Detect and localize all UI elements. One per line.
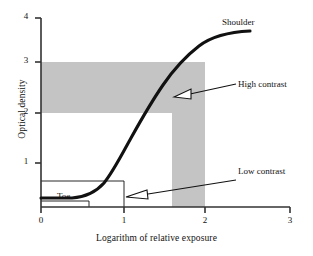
low-contrast-arrowhead-icon <box>126 190 148 199</box>
annotation-low-contrast: Low contrast <box>238 166 285 176</box>
annotation-toe: Toe <box>57 191 70 201</box>
x-tick-label-3: 3 <box>282 215 298 225</box>
annotation-high-contrast: High contrast <box>238 79 287 89</box>
chart-figure: 4 3 2 1 0 1 2 3 Logarithm of relative ex… <box>0 0 313 256</box>
x-tick-label-1: 1 <box>116 215 132 225</box>
characteristic-curve <box>41 31 250 198</box>
y-axis-title: Optical density <box>17 44 27 174</box>
annotation-shoulder: Shoulder <box>222 17 255 27</box>
x-axis-title: Logarithm of relative exposure <box>0 233 313 243</box>
y-tick-label-4: 4 <box>18 11 34 21</box>
x-tick-label-0: 0 <box>33 215 49 225</box>
x-tick-label-2: 2 <box>197 215 213 225</box>
